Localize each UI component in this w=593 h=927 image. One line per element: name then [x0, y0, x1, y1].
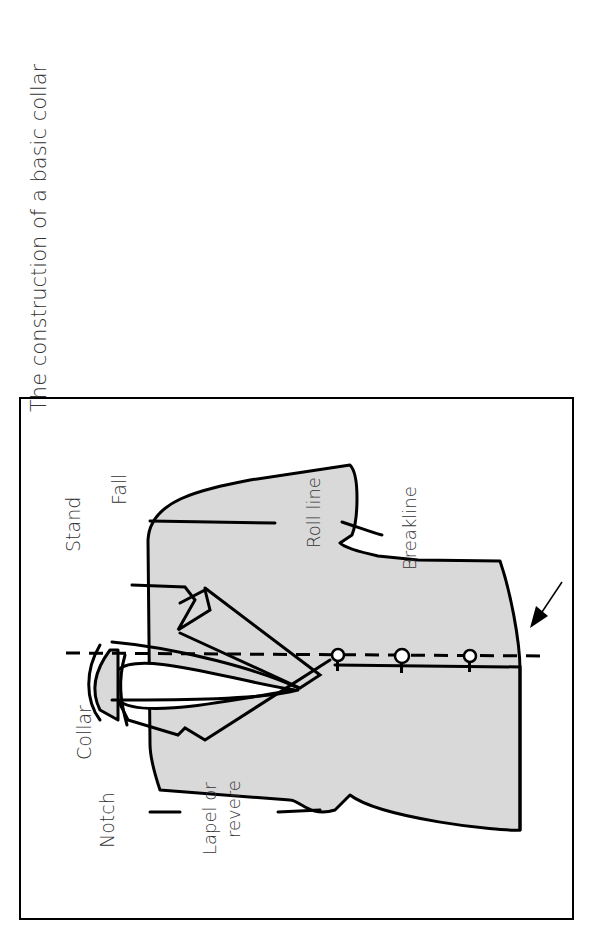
- lapel-seam: [278, 810, 320, 812]
- label-roll-line: Roll line: [303, 477, 324, 548]
- label-notch: Notch: [96, 792, 118, 848]
- label-stand: Stand: [62, 497, 84, 552]
- arrow-head-icon: [530, 606, 548, 628]
- caption: The construction of a basic collar: [27, 63, 51, 412]
- label-lapel-line2: revere: [223, 780, 244, 838]
- jacket-body: [148, 465, 520, 830]
- label-lapel-line1: Lapel or: [199, 782, 220, 855]
- fall-seam: [150, 521, 275, 523]
- label-collar: Collar: [73, 705, 95, 760]
- collar-upper: [95, 650, 118, 720]
- label-breakline: Breakline: [399, 486, 420, 570]
- collar-diagram: The construction of a basic collar Stand…: [0, 0, 593, 927]
- label-fall: Fall: [108, 474, 130, 505]
